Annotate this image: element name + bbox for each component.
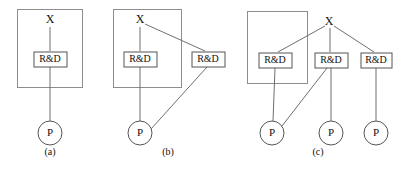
- node-b-rd2-label: R&D: [197, 53, 219, 64]
- edge-c-x-to-c-rd1: [278, 26, 325, 52]
- node-c-p1-label: P: [269, 126, 275, 138]
- node-c-rd1-label: R&D: [264, 54, 286, 65]
- node-c-p2-label: P: [328, 126, 334, 138]
- edge-b-x-to-b-rd2: [145, 24, 205, 51]
- panel-c: XR&DR&DR&DPPP(c): [248, 12, 393, 159]
- node-c-p3-label: P: [373, 126, 379, 138]
- edge-b-rd2-to-b-p: [151, 67, 207, 129]
- node-a-x-label: X: [46, 12, 55, 26]
- figure-root: XR&DP(a)XR&DR&DP(b)XR&DR&DR&DPPP(c): [0, 0, 406, 170]
- panel-caption-b: (b): [162, 146, 174, 158]
- node-b-p-label: P: [137, 126, 143, 138]
- group-boundary-box-b: [114, 10, 182, 88]
- node-b-x-label: X: [136, 12, 145, 26]
- diagram-canvas: XR&DP(a)XR&DR&DP(b)XR&DR&DR&DPPP(c): [0, 0, 406, 170]
- panel-b: XR&DR&DP(b): [114, 10, 226, 159]
- node-a-p-label: P: [47, 126, 53, 138]
- edge-c-rd1-to-c-p1: [273, 68, 275, 121]
- panel-caption-c: (c): [312, 146, 323, 158]
- edge-c-x-to-c-rd3: [334, 26, 374, 52]
- node-c-rd3-label: R&D: [365, 54, 387, 65]
- node-c-x-label: X: [325, 14, 334, 28]
- edge-c-rd2-to-c-p1: [282, 68, 327, 126]
- group-boundary-box-c: [248, 12, 308, 84]
- node-a-rd-label: R&D: [39, 53, 61, 64]
- node-c-rd2-label: R&D: [320, 54, 342, 65]
- panel-caption-a: (a): [44, 146, 55, 158]
- panel-a: XR&DP(a): [18, 10, 83, 159]
- node-b-rd1-label: R&D: [129, 53, 151, 64]
